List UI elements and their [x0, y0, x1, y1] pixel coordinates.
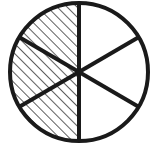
figure-container [0, 0, 161, 148]
hatched-circle-diagram [0, 0, 161, 148]
